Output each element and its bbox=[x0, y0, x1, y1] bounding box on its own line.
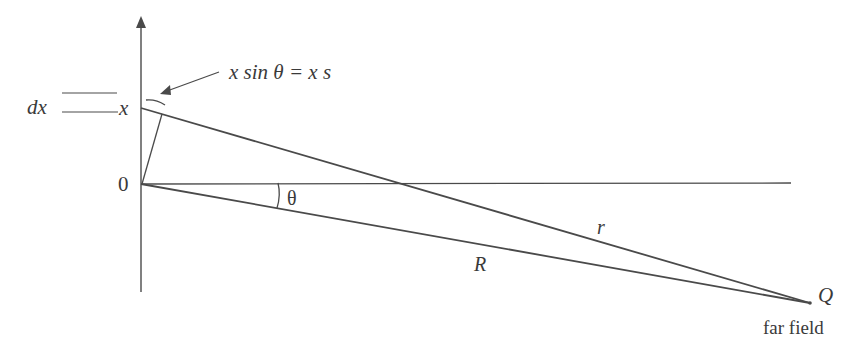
horizontal-axis bbox=[141, 183, 791, 184]
ray-R bbox=[141, 184, 810, 303]
point-Q bbox=[808, 301, 812, 305]
theta-label: θ bbox=[287, 187, 297, 209]
r-label: r bbox=[597, 216, 605, 238]
path-difference-text: x sin θ = x s bbox=[228, 60, 331, 84]
x-label: x bbox=[118, 96, 129, 120]
annotation-arrow-line bbox=[167, 72, 219, 91]
R-label: R bbox=[473, 253, 486, 275]
Q-label: Q bbox=[818, 283, 833, 307]
annotation-arrow-icon bbox=[160, 85, 171, 95]
dx-label: dx bbox=[27, 95, 48, 119]
far-field-diagram: dx x 0 x sin θ = x s θ r R Q far field bbox=[0, 0, 865, 356]
vertical-axis-arrow-icon bbox=[136, 16, 146, 28]
origin-label: 0 bbox=[118, 172, 129, 196]
perpendicular-line bbox=[142, 114, 162, 184]
path-difference-arc bbox=[146, 100, 165, 105]
diagram-svg: dx x 0 x sin θ = x s θ r R Q far field bbox=[0, 0, 865, 356]
path-difference-label: x sin θ = x s bbox=[228, 60, 331, 84]
far-field-label: far field bbox=[763, 317, 824, 338]
theta-angle-arc bbox=[277, 183, 279, 208]
